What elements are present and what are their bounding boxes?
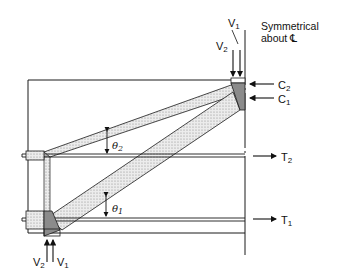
symmetry-note: Symmetrical about ℄ — [261, 20, 319, 44]
anchor-plate-t2 — [26, 151, 44, 160]
symmetry-note-line1: Symmetrical — [261, 20, 319, 32]
angle-markers — [106, 131, 107, 216]
label-top-v2: V2 — [216, 40, 228, 56]
vertical-strut — [44, 156, 50, 218]
label-bottom-v2: V2 — [33, 256, 45, 272]
anchor-plate-t1 — [26, 211, 44, 229]
label-t2: T2 — [281, 151, 292, 167]
lower-inclined-strut — [48, 92, 240, 230]
label-c1: C1 — [278, 93, 290, 109]
label-t1: T1 — [281, 214, 292, 230]
label-theta2: θ2 — [112, 140, 123, 155]
bottom-reaction-arrows — [47, 240, 53, 262]
label-top-v1: V1 — [228, 17, 240, 33]
tie-arrows — [253, 156, 276, 219]
compression-arrows — [250, 84, 274, 98]
label-theta1: θ1 — [112, 203, 123, 218]
label-bottom-v1: V1 — [57, 256, 69, 272]
top-load-arrows — [232, 30, 240, 76]
symmetry-note-line2: about ℄ — [261, 32, 319, 44]
